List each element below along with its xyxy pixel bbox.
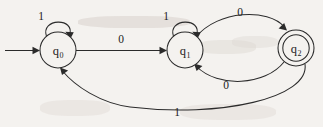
transition-q2-to-q1	[194, 62, 284, 81]
automaton-diagram-canvas: q0 q1 q2 1 0 1 0 0 1	[0, 0, 323, 127]
state-label-q1: q1	[180, 44, 191, 59]
transition-label-q0-q0: 1	[38, 10, 44, 22]
start-arrow	[5, 47, 40, 54]
transition-q0-to-q1	[76, 47, 167, 54]
state-label-q2: q2	[291, 42, 302, 57]
transition-q2-to-q0	[60, 64, 305, 110]
state-label-q0: q0	[53, 44, 64, 59]
transition-label-q1-q2: 0	[237, 6, 243, 18]
transition-label-q2-q1: 0	[223, 79, 229, 91]
transition-label-q1-q1: 1	[163, 10, 169, 22]
transition-label-q0-q1: 0	[118, 33, 124, 45]
automaton-vector-layer	[0, 0, 323, 127]
transition-label-q2-q0: 1	[174, 106, 180, 118]
